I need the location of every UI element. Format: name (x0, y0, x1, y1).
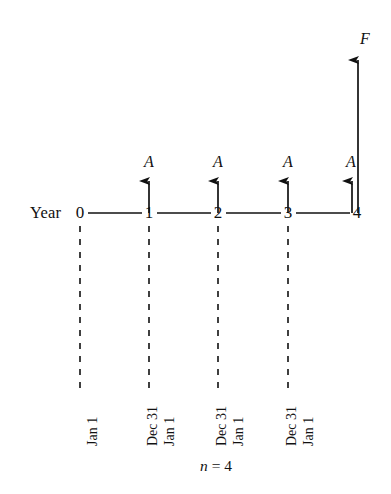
period-value: 4 (224, 457, 232, 474)
cash-flow-diagram: Year 0 1 2 3 4 A A A A F Jan 1 Dec 31 Ja… (0, 0, 391, 494)
period-symbol: n (200, 457, 208, 474)
period-count-label: n = 4 (185, 458, 247, 474)
axis-caption-year: Year (30, 205, 61, 222)
date-label-year2-dec31: Dec 31 (215, 406, 229, 446)
future-flow-label: F (355, 31, 375, 47)
date-label-year2-jan1: Jan 1 (232, 417, 246, 446)
diagram-canvas (0, 0, 391, 494)
annual-flow-label-year-4: A (341, 154, 361, 170)
tick-label-1: 1 (141, 204, 157, 221)
date-label-year3-jan1: Jan 1 (302, 417, 316, 446)
year-boundary-guides (80, 226, 288, 391)
annual-flow-label-year-2: A (208, 154, 228, 170)
annual-flow-label-year-3: A (278, 154, 298, 170)
tick-label-4: 4 (349, 204, 365, 221)
date-label-year0-jan1: Jan 1 (86, 417, 100, 446)
tick-label-2: 2 (210, 204, 226, 221)
annual-flow-arrows (149, 181, 352, 213)
annual-flow-label-year-1: A (139, 154, 159, 170)
date-label-year3-dec31: Dec 31 (285, 406, 299, 446)
date-label-year1-jan1: Jan 1 (163, 417, 177, 446)
tick-label-3: 3 (280, 204, 296, 221)
date-label-year1-dec31: Dec 31 (146, 406, 160, 446)
tick-label-0: 0 (72, 204, 88, 221)
